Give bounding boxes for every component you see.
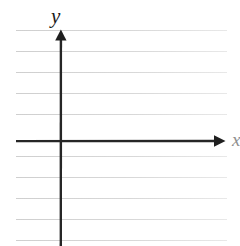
grid-lines: [16, 30, 227, 241]
coordinate-plane-figure: y x: [0, 0, 240, 246]
axes: [16, 30, 226, 246]
x-axis-label: x: [232, 130, 240, 149]
x-axis-arrowhead: [214, 135, 226, 147]
coordinate-plane-svg: [0, 0, 240, 246]
y-axis-label: y: [51, 6, 60, 27]
